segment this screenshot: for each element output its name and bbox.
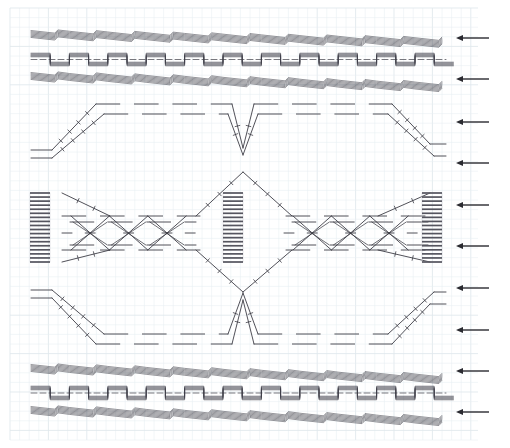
left-arrow-annotation (456, 368, 489, 374)
left-arrow-annotation (456, 285, 489, 291)
left-arrow-annotation (456, 76, 489, 82)
arrow-head (456, 327, 463, 333)
eye-diamond-upper-edge (62, 193, 110, 216)
hatch-marker-bar (223, 193, 243, 262)
arrow-head (456, 35, 463, 41)
hatch-marker-bar (30, 193, 50, 262)
eye-crossing-edge (71, 216, 90, 233)
eye-crossing-edge (129, 216, 148, 233)
top-square-band (31, 57, 453, 66)
signal-plot-root (0, 0, 510, 448)
edge-tick (93, 252, 94, 257)
eye-diamond-lower-edge (62, 250, 110, 262)
waveform-plot-canvas (0, 0, 510, 448)
eye-crossing-edge-inner (90, 222, 107, 234)
left-arrow-annotation (456, 409, 489, 415)
eye-crossing-edge-inner (73, 222, 90, 234)
eye-crossing-edge (90, 216, 109, 233)
eye-crossing-edge-inner (150, 222, 167, 234)
trapezoid-upper-inner-edge (388, 114, 434, 156)
hatch-bar-outline (30, 193, 50, 262)
left-arrow-annotation (456, 202, 489, 208)
edge-tick (77, 256, 78, 261)
hatch-bar-outline (223, 193, 243, 262)
eye-crossing-edge-inner (333, 234, 350, 246)
arrow-head (456, 160, 463, 166)
eye-crossing-edge-inner (295, 222, 312, 234)
eye-crossing-edge-inner (372, 222, 389, 234)
eye-crossing-edge (167, 216, 186, 233)
eye-crossing-edge-inner (295, 234, 312, 246)
trace-layer (31, 30, 453, 426)
left-arrow-annotation (456, 160, 489, 166)
eye-crossing-edge (312, 216, 331, 233)
arrow-head (456, 119, 463, 125)
eye-crossing-edge-inner (129, 222, 146, 234)
eye-crossing-edge (331, 216, 350, 233)
left-arrow-annotation (456, 35, 489, 41)
trapezoid-upper-outer-edge (52, 104, 96, 150)
arrow-head (456, 202, 463, 208)
eye-crossing-edge (370, 216, 389, 233)
arrow-head (456, 368, 463, 374)
left-arrow-annotation (456, 327, 489, 333)
eye-crossing-edge-inner (129, 234, 146, 246)
trapezoid-lower-outer-edge (52, 298, 96, 344)
arrow-head (456, 409, 463, 415)
eye-crossing-edge (351, 216, 370, 233)
eye-crossing-edge-inner (90, 234, 107, 246)
edge-tick (235, 321, 240, 322)
eye-crossing-edge (109, 216, 128, 233)
eye-crossing-edge-inner (167, 222, 184, 234)
eye-crossing-edge-inner (111, 234, 128, 246)
edge-tick (235, 125, 240, 126)
eye-crossing-edge-inner (150, 234, 167, 246)
trapezoid-upper-outer-edge (392, 104, 430, 144)
eye-crossing-edge (293, 216, 312, 233)
left-arrow-annotation (456, 119, 489, 125)
arrow-head (456, 76, 463, 82)
eye-crossing-edge-inner (372, 234, 389, 246)
arrow-head (456, 285, 463, 291)
edge-tick (395, 252, 396, 257)
eye-crossing-edge (148, 216, 167, 233)
eye-crossing-edge-inner (111, 222, 128, 234)
eye-crossing-edge-inner (333, 222, 350, 234)
eye-crossing-edge-inner (73, 234, 90, 246)
trapezoid-lower-outer-edge (392, 304, 430, 344)
eye-crossing-edge-inner (167, 234, 184, 246)
eye-crossing-edge (389, 216, 408, 233)
trapezoid-lower-inner-edge (388, 292, 434, 334)
